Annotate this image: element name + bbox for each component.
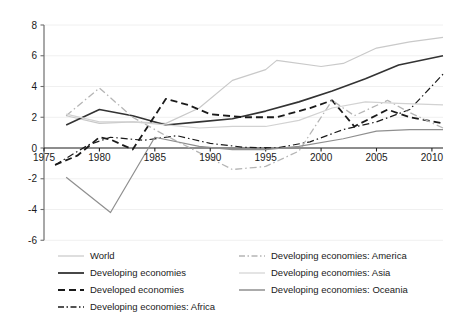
x-tick-label: 1990 — [199, 152, 222, 163]
y-tick-label: -6 — [28, 235, 37, 246]
legend-line-swatch-icon — [239, 267, 265, 279]
x-tick-label: 1980 — [88, 152, 111, 163]
x-tick-label: 2010 — [421, 152, 444, 163]
series-line — [66, 130, 443, 213]
legend-item-label: Developing economies: America — [271, 250, 407, 262]
y-tick-label: 6 — [31, 50, 37, 61]
y-axis — [41, 25, 45, 240]
chart-container: 86420-2-4-6 1975198019851990199520002005… — [0, 0, 452, 315]
legend-item-label: Developing economies — [90, 267, 186, 279]
x-tick-label: 1985 — [144, 152, 167, 163]
y-tick-label: -4 — [28, 204, 37, 215]
legend-item[interactable]: Developing economies: Africa — [58, 299, 215, 315]
data-series-group — [55, 37, 443, 212]
x-tick-labels: 19751980198519901995200020052010 — [33, 152, 444, 163]
legend-line-swatch-icon — [58, 284, 84, 296]
x-tick-label: 2000 — [310, 152, 333, 163]
legend-item-label: World — [90, 250, 115, 262]
y-tick-labels: 86420-2-4-6 — [28, 20, 37, 246]
y-tick-label: 8 — [31, 20, 37, 31]
chart-legend: WorldDeveloping economiesDeveloped econo… — [0, 248, 452, 315]
x-tick-label: 1995 — [255, 152, 278, 163]
legend-column-right: Developing economies: AmericaDeveloping … — [239, 248, 408, 299]
legend-item-label: Developing economies: Asia — [271, 267, 390, 279]
legend-item[interactable]: Developing economies: America — [239, 248, 408, 264]
series-line — [66, 102, 443, 128]
legend-item-label: Developing economies: Oceania — [271, 284, 408, 296]
x-tick-label: 2005 — [365, 152, 388, 163]
legend-item-label: Developing economies: Africa — [90, 301, 215, 313]
legend-item[interactable]: Developing economies: Oceania — [239, 282, 408, 298]
legend-line-swatch-icon — [58, 250, 84, 262]
y-tick-label: 4 — [31, 81, 37, 92]
legend-line-swatch-icon — [58, 267, 84, 279]
legend-item[interactable]: Developed economies — [58, 282, 215, 298]
legend-line-swatch-icon — [58, 301, 84, 313]
legend-item[interactable]: Developing economies — [58, 265, 215, 281]
legend-item[interactable]: Developing economies: Asia — [239, 265, 408, 281]
legend-item-label: Developed economies — [90, 284, 184, 296]
line-chart-plot: 86420-2-4-6 1975198019851990199520002005… — [0, 0, 452, 250]
legend-item[interactable]: World — [58, 248, 215, 264]
legend-line-swatch-icon — [239, 250, 265, 262]
legend-line-swatch-icon — [239, 284, 265, 296]
y-tick-label: -2 — [28, 173, 37, 184]
y-tick-label: 2 — [31, 112, 37, 123]
series-line — [66, 56, 443, 125]
legend-column-left: WorldDeveloping economiesDeveloped econo… — [58, 248, 215, 315]
x-tick-label: 1975 — [33, 152, 56, 163]
